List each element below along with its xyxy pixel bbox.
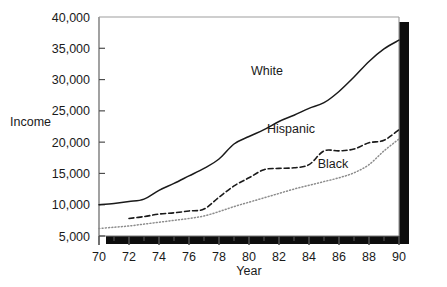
x-tick-label: 82 [272,250,286,264]
y-tick-label: 5,000 [59,230,90,244]
y-axis-tick-labels: 5,00010,00015,00020,00025,00030,00035,00… [52,11,90,244]
income-by-race-line-chart: 5,00010,00015,00020,00025,00030,00035,00… [0,0,447,287]
x-tick-label: 90 [392,250,406,264]
x-tick-label: 72 [122,250,136,264]
x-axis-tick-labels: 7072747678808284868890 [92,250,406,264]
y-tick-label: 15,000 [52,167,90,181]
y-tick-label: 35,000 [52,42,90,56]
chart-canvas: 5,00010,00015,00020,00025,00030,00035,00… [0,0,447,287]
series-label-white: White [251,64,283,78]
x-tick-label: 88 [362,250,376,264]
y-tick-label: 30,000 [52,73,90,87]
x-tick-label: 84 [302,250,316,264]
x-tick-label: 78 [212,250,226,264]
x-tick-label: 74 [152,250,166,264]
x-tick-label: 76 [182,250,196,264]
x-tick-label: 80 [242,250,256,264]
series-label-hispanic: Hispanic [267,122,315,136]
y-tick-label: 40,000 [52,11,90,25]
y-tick-label: 20,000 [52,136,90,150]
frame-shadow-bottom [106,236,409,244]
frame-shadow-right [399,22,409,244]
series-label-black: Black [318,157,349,171]
plot-background [99,17,399,236]
x-tick-label: 86 [332,250,346,264]
y-axis-title: Income [10,115,51,129]
x-tick-label: 70 [92,250,106,264]
y-tick-label: 10,000 [52,198,90,212]
x-axis-title: Year [236,264,261,278]
y-tick-label: 25,000 [52,104,90,118]
